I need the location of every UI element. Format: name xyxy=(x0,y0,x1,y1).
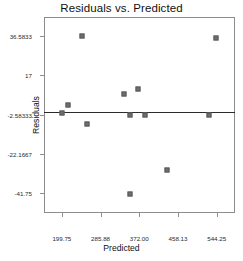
scatter-point xyxy=(65,102,70,107)
x-axis-tick xyxy=(217,213,218,217)
y-axis-tick-label: -2.58333 xyxy=(8,111,32,118)
scatter-point xyxy=(85,121,90,126)
x-axis-title: Predicted xyxy=(0,243,243,253)
x-axis-tick-label: 458.13 xyxy=(169,235,188,242)
scatter-point xyxy=(214,35,219,40)
x-axis-tick xyxy=(139,213,140,217)
scatter-point xyxy=(143,113,148,118)
x-axis-tick-label: 544.25 xyxy=(207,235,226,242)
y-axis-tick-label: 36.5833 xyxy=(10,32,32,39)
y-axis-tick xyxy=(40,36,44,37)
scatter-point xyxy=(207,113,212,118)
y-axis-tick-label: -41.75 xyxy=(14,190,32,197)
x-axis-tick-label: 285.88 xyxy=(91,235,110,242)
x-axis-tick-label: 372.00 xyxy=(130,235,149,242)
x-axis-tick-label: 199.75 xyxy=(52,235,71,242)
x-axis-tick xyxy=(178,213,179,217)
scatter-point xyxy=(135,86,140,91)
y-axis-tick xyxy=(40,193,44,194)
chart-title: Residuals vs. Predicted xyxy=(0,2,243,14)
y-axis-tick-label: -22.1667 xyxy=(8,151,32,158)
y-axis-title: Residuals xyxy=(31,96,41,134)
y-axis-tick xyxy=(40,154,44,155)
scatter-point xyxy=(128,113,133,118)
y-axis-tick-label: 17 xyxy=(25,72,32,79)
scatter-point xyxy=(121,92,126,97)
plot-area: Residuals 36.583317-2.58333-22.1667-41.7… xyxy=(44,17,235,213)
chart-root: Residuals vs. Predicted Residuals 36.583… xyxy=(0,0,243,261)
scatter-point xyxy=(128,191,133,196)
x-axis-tick xyxy=(62,213,63,217)
y-axis-tick xyxy=(40,75,44,76)
scatter-point xyxy=(80,33,85,38)
x-axis-tick xyxy=(101,213,102,217)
scatter-point xyxy=(59,110,64,115)
scatter-point xyxy=(164,168,169,173)
